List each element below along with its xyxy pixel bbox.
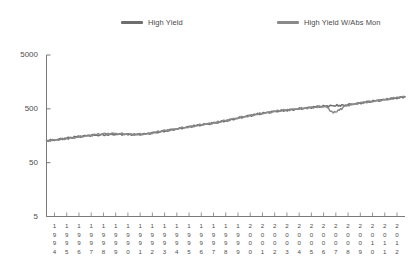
x-axis-tick-digit: 0: [356, 239, 364, 248]
x-axis-tick-digit: 2: [393, 222, 401, 231]
y-axis-tick-label: 5: [0, 213, 38, 221]
x-axis-tick-digit: 9: [112, 248, 120, 257]
x-axis-tick-digit: 9: [124, 231, 132, 240]
x-axis-tick-label: 1995: [185, 222, 193, 256]
x-axis-tick-digit: 0: [283, 231, 291, 240]
x-axis-tick-digit: 9: [356, 248, 364, 257]
x-axis-tick-digit: 1: [185, 222, 193, 231]
x-axis-tick-label: 1998: [99, 222, 107, 256]
x-axis-tick-digit: 2: [258, 222, 266, 231]
x-axis-tick-digit: 9: [222, 239, 230, 248]
x-axis-tick-digit: 1: [87, 222, 95, 231]
x-axis-tick-digit: 0: [246, 248, 254, 257]
x-axis-tick-digit: 9: [75, 231, 83, 240]
x-axis-tick-label: 1990: [124, 222, 132, 256]
x-axis-tick-label: 1997: [87, 222, 95, 256]
x-axis-tick-label: 2004: [295, 222, 303, 256]
y-axis-ticks: [47, 55, 51, 217]
x-axis-tick-digit: 8: [344, 248, 352, 257]
x-axis-tick-digit: 1: [381, 239, 389, 248]
x-axis-tick-digit: 1: [173, 222, 181, 231]
x-axis-tick-digit: 3: [283, 248, 291, 257]
x-axis-tick-digit: 1: [161, 222, 169, 231]
x-axis-tick-digit: 6: [197, 248, 205, 257]
x-axis-tick-digit: 7: [210, 248, 218, 257]
x-axis-tick-digit: 9: [112, 239, 120, 248]
x-axis-tick-digit: 3: [161, 248, 169, 257]
x-axis-tick-label: 1993: [161, 222, 169, 256]
x-axis-tick-digit: 0: [295, 239, 303, 248]
x-axis-tick-digit: 5: [63, 248, 71, 257]
x-axis-tick-digit: 0: [124, 248, 132, 257]
x-axis-tick-digit: 5: [185, 248, 193, 257]
x-axis-tick-digit: 2: [148, 248, 156, 257]
x-axis-tick-digit: 9: [161, 239, 169, 248]
x-axis-tick-digit: 1: [393, 239, 401, 248]
x-axis-tick-digit: 9: [87, 231, 95, 240]
x-axis-tick-digit: 0: [258, 239, 266, 248]
x-axis-tick-digit: 2: [369, 222, 377, 231]
y-axis-tick-label: 50: [0, 159, 38, 167]
x-axis-tick-digit: 9: [210, 231, 218, 240]
x-axis-tick-digit: 0: [320, 231, 328, 240]
x-axis-tick-label: 2003: [283, 222, 291, 256]
x-axis-tick-digit: 2: [356, 222, 364, 231]
x-axis-tick-label: 1999: [234, 222, 242, 256]
x-axis-tick-digit: 4: [295, 248, 303, 257]
x-axis-tick-label: 1994: [51, 222, 59, 256]
x-axis-tick-digit: 1: [51, 222, 59, 231]
x-axis-tick-digit: 2: [246, 222, 254, 231]
x-axis-tick-label: 2007: [332, 222, 340, 256]
x-axis-tick-digit: 1: [197, 222, 205, 231]
x-axis-tick-label: 2006: [320, 222, 328, 256]
x-axis-tick-digit: 6: [75, 248, 83, 257]
x-axis-tick-digit: 2: [283, 222, 291, 231]
x-axis-tick-digit: 1: [148, 222, 156, 231]
x-axis-tick-digit: 9: [51, 231, 59, 240]
x-axis-tick-label: 2011: [381, 222, 389, 256]
x-axis-tick-label: 1996: [197, 222, 205, 256]
x-axis-tick-digit: 1: [136, 248, 144, 257]
x-axis-tick-digit: 2: [320, 222, 328, 231]
x-axis-tick-digit: 2: [295, 222, 303, 231]
x-axis-tick-digit: 9: [148, 231, 156, 240]
x-axis-tick-digit: 0: [283, 239, 291, 248]
x-axis-tick-digit: 9: [222, 231, 230, 240]
x-axis-tick-digit: 0: [344, 231, 352, 240]
x-axis-tick-digit: 9: [63, 239, 71, 248]
x-axis-tick-digit: 0: [246, 239, 254, 248]
x-axis-tick-digit: 0: [271, 239, 279, 248]
x-axis-tick-digit: 4: [51, 248, 59, 257]
x-axis-tick-digit: 0: [271, 231, 279, 240]
x-axis-tick-digit: 1: [63, 222, 71, 231]
x-axis-tick-digit: 2: [381, 222, 389, 231]
x-axis-tick-label: 1996: [75, 222, 83, 256]
x-axis-tick-digit: 9: [87, 239, 95, 248]
x-axis-tick-digit: 8: [222, 248, 230, 257]
x-axis-tick-digit: 9: [185, 239, 193, 248]
x-axis-tick-digit: 9: [234, 239, 242, 248]
x-axis-tick-label: 2002: [271, 222, 279, 256]
x-axis-tick-digit: 1: [222, 222, 230, 231]
x-axis-tick-digit: 0: [344, 239, 352, 248]
x-axis-ticks: [55, 213, 398, 217]
x-axis-tick-digit: 9: [63, 231, 71, 240]
x-axis-tick-label: 1998: [222, 222, 230, 256]
x-axis-tick-digit: 0: [307, 231, 315, 240]
x-axis-tick-digit: 0: [307, 239, 315, 248]
x-axis-tick-digit: 0: [295, 231, 303, 240]
x-axis-tick-digit: 1: [99, 222, 107, 231]
x-axis-tick-digit: 4: [173, 248, 181, 257]
x-axis-tick-digit: 9: [136, 239, 144, 248]
x-axis-tick-digit: 2: [344, 222, 352, 231]
x-axis-tick-digit: 2: [332, 222, 340, 231]
x-axis-tick-digit: 1: [369, 239, 377, 248]
x-axis-tick-digit: 0: [381, 231, 389, 240]
x-axis-labels: 1994199519961997199819991990199119921993…: [0, 222, 414, 262]
x-axis-tick-digit: 9: [75, 239, 83, 248]
x-axis-tick-digit: 9: [234, 231, 242, 240]
x-axis-tick-digit: 9: [197, 231, 205, 240]
x-axis-tick-digit: 6: [320, 248, 328, 257]
x-axis-tick-digit: 9: [99, 239, 107, 248]
x-axis-tick-label: 2008: [344, 222, 352, 256]
